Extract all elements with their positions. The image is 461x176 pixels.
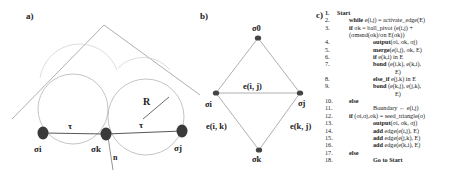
line-text: Go to Start (373, 156, 403, 163)
keyword: else_if (373, 75, 390, 82)
line-text: output(σi, σk, σj) (373, 38, 417, 45)
keyword: while (349, 16, 363, 23)
code-line: 14.add edge(e(i,j), E) (313, 127, 461, 134)
label-radius: R (143, 96, 150, 107)
line-number: 15. (325, 134, 333, 141)
line-text: else (349, 149, 359, 156)
code-line: 1.Start (313, 9, 461, 16)
node-sigma-0 (255, 35, 261, 40)
line-number: 7. (325, 60, 330, 67)
line-text: else_if e(j,k) in E (373, 75, 416, 82)
label-sigma-j-a: σj (174, 143, 182, 153)
statement: edge(e(j,k), E) (383, 134, 420, 141)
label-tau-right: τ (139, 120, 143, 130)
code-line: 11.Boundary ← e(i,j) (313, 104, 461, 111)
code-line: 12.if (σi,σj,σk) = seed_triangle(σ) (313, 112, 461, 119)
statement: e(j,k) in E (390, 75, 416, 82)
edge-ik (43, 133, 106, 134)
keyword: merge (373, 46, 390, 53)
line-number: 8. (325, 75, 330, 82)
label-sigma-k-a: σk (91, 144, 101, 154)
keyword: output (373, 119, 391, 126)
code-line: 2.while e(i,j) = activate_edge(E) (313, 16, 461, 23)
statement: edge(e(i,j), E) (383, 127, 419, 134)
line-text: output(σi, σk, σj) (373, 119, 417, 126)
line-text: add edge(e(i,j), E) (373, 127, 419, 134)
code-line: 15.add edge(e(j,k), E) (313, 134, 461, 141)
statement: (e(i,j), σk, E) (390, 46, 422, 53)
statement: (e(i,k), e(k,i), (386, 60, 421, 67)
keyword: bond (373, 60, 386, 67)
code-line: 6.if e(k,i) in E (313, 53, 461, 60)
node-sigma-j-b (297, 90, 303, 95)
statement: (σi,σj,σk) = seed_triangle(σ) (353, 112, 425, 119)
statement: edge(e(k,i), E) (383, 141, 420, 148)
upper-ball-arc-left (40, 44, 117, 78)
code-line: 7.bond (e(i,k), e(k,i), (313, 60, 461, 67)
keyword: else (349, 97, 359, 104)
statement: e(k,i) in E (377, 53, 403, 60)
label-sigma-i-b: σi (205, 99, 212, 109)
keyword: else (349, 149, 359, 156)
statement: σk = ball_pivot (e(i,j) + (353, 24, 413, 31)
label-edge-ij: e(i, j) (243, 81, 262, 91)
code-line: 18.Go to Start (313, 156, 461, 163)
code-line: 9.bond (e(k,j), e(j,k), (313, 82, 461, 89)
line-text: add edge(e(k,i), E) (373, 141, 420, 148)
label-sigma-j-b: σj (298, 98, 305, 108)
line-text: if (σi,σj,σk) = seed_triangle(σ) (349, 112, 425, 119)
line-text: E) (395, 90, 401, 97)
line-number: 1. (325, 9, 330, 16)
upper-ball-arc-right (118, 57, 170, 70)
statement: E) (395, 68, 401, 75)
ball-right (108, 79, 184, 155)
code-line: 17.else (313, 149, 461, 156)
statement: Boundary ← e(i,j) (373, 104, 419, 111)
pseudocode-block: 1.Start2.while e(i,j) = activate_edge(E)… (313, 9, 461, 163)
code-line: 13.output(σi, σk, σj) (313, 119, 461, 126)
panel-b-diagram (213, 35, 303, 152)
label-sigma-i-a: σi (34, 144, 41, 154)
line-text: add edge(e(j,k), E) (373, 134, 420, 141)
edge-kj (106, 131, 182, 134)
edge-0j (258, 38, 300, 93)
code-line: 3.if σk = ball_pivot (e(i,j) + (313, 24, 461, 31)
code-line: E) (313, 90, 461, 97)
node-sigma-k-a (101, 128, 112, 141)
code-line: 4.output(σi, σk, σj) (313, 38, 461, 45)
statement: (σi, σk, σj) (391, 38, 418, 45)
line-number: 6. (325, 53, 330, 60)
line-number: 9. (325, 82, 330, 89)
line-text: Start (337, 9, 350, 16)
label-sigma-0: σ0 (252, 23, 261, 33)
label-normal: n (113, 153, 117, 162)
line-text: (σmsnd(σk)/σn E(σk)) (349, 31, 404, 38)
node-sigma-i-a (38, 127, 49, 140)
line-number: 10. (325, 97, 333, 104)
line-number: 5. (325, 46, 330, 53)
line-number: 2. (325, 16, 330, 23)
line-number: 3. (325, 24, 330, 31)
statement: (σi, σk, σj) (391, 119, 418, 126)
code-line: 5.merge(e(i,j), σk, E) (313, 46, 461, 53)
statement: (σmsnd(σk)/σn E(σk)) (349, 31, 404, 38)
line-number: 16. (325, 141, 333, 148)
label-edge-ik: e(i, k) (206, 121, 227, 131)
keyword: add (373, 141, 383, 148)
code-line: E) (313, 68, 461, 75)
panel-a-label: a) (26, 11, 34, 21)
line-text: while e(i,j) = activate_edge(E) (349, 16, 425, 23)
code-line: 8.else_if e(j,k) in E (313, 75, 461, 82)
line-number: 13. (325, 119, 333, 126)
line-text: Boundary ← e(i,j) (373, 104, 419, 111)
code-line: (σmsnd(σk)/σn E(σk)) (313, 31, 461, 38)
node-sigma-i-b (213, 90, 219, 95)
keyword: add (373, 134, 383, 141)
node-sigma-k-b (256, 147, 262, 152)
line-number: 4. (325, 38, 330, 45)
line-number: 18. (325, 156, 333, 163)
line-number: 14. (325, 127, 333, 134)
statement: e(i,j) = activate_edge(E) (363, 16, 425, 23)
panel-b-label: b) (200, 11, 208, 21)
line-number: 11. (325, 104, 333, 111)
